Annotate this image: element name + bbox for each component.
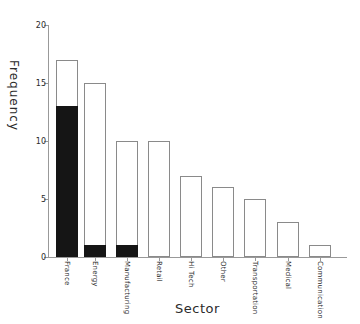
y-tick-label-15: 15 xyxy=(26,79,46,88)
bar-france-highlight xyxy=(56,106,78,257)
x-tick-label-medical: Medical xyxy=(283,261,293,289)
x-tick-label-france: France xyxy=(62,261,72,285)
bar-medical xyxy=(277,222,299,257)
bar-retail xyxy=(148,141,170,257)
bar-hi-tech xyxy=(180,176,202,257)
y-tick-label-0: 0 xyxy=(26,253,46,262)
sector-frequency-bar-chart: Frequency 05101520 FranceEnergyManufactu… xyxy=(0,0,360,324)
y-axis-line xyxy=(48,25,49,258)
x-tick-label-hi-tech: Hi Tech xyxy=(186,261,196,288)
bar-manufacturing-highlight xyxy=(116,245,138,257)
y-tick-label-20: 20 xyxy=(26,21,46,30)
bar-communication xyxy=(309,245,331,257)
bar-other xyxy=(212,187,234,257)
bar-energy xyxy=(84,83,106,257)
x-tick-label-retail: Retail xyxy=(154,261,164,282)
y-tick-label-10: 10 xyxy=(26,137,46,146)
bar-manufacturing xyxy=(116,141,138,257)
bar-transportation xyxy=(244,199,266,257)
x-tick-label-other: Other xyxy=(218,261,228,282)
x-axis-title: Sector xyxy=(48,301,347,316)
x-axis-line xyxy=(48,257,347,258)
x-tick-label-energy: Energy xyxy=(90,261,100,287)
bar-energy-highlight xyxy=(84,245,106,257)
y-axis-title: Frequency xyxy=(7,60,21,131)
y-tick-label-5: 5 xyxy=(26,195,46,204)
